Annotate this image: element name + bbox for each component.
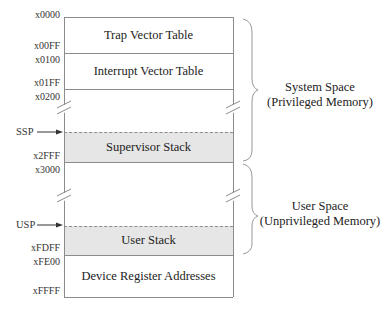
diagram-decorations [0,0,386,310]
system-space-title: System Space [250,80,386,95]
user-space-title: User Space [250,199,386,214]
usp-arrow-icon [37,223,63,228]
break-mark-user-right [226,189,240,204]
system-space-label: System Space (Privileged Memory) [250,80,386,110]
ssp-arrow-icon [37,130,63,135]
system-space-subtitle: (Privileged Memory) [250,95,386,110]
break-mark-system-right [226,101,240,116]
usp-label: USP [16,220,35,230]
break-mark-system-left [57,101,71,116]
user-space-label: User Space (Unprivileged Memory) [250,199,386,229]
user-space-subtitle: (Unprivileged Memory) [250,214,386,229]
break-mark-user-left [57,189,71,204]
ssp-label: SSP [16,127,34,137]
